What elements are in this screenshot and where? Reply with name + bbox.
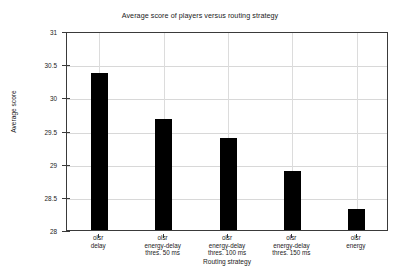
x-tick-label-line: energy xyxy=(346,242,365,250)
bar[interactable] xyxy=(91,73,108,231)
y-tick-mark xyxy=(62,32,70,33)
y-tick-label: 30 xyxy=(50,95,57,102)
y-tick-mark xyxy=(62,132,70,133)
x-tick-label-line: olsr xyxy=(91,234,106,242)
y-tick-mark xyxy=(62,65,70,66)
plot-area xyxy=(66,32,388,231)
bar[interactable] xyxy=(348,209,365,231)
y-tick-label: 29.5 xyxy=(45,128,57,135)
bar[interactable] xyxy=(284,171,301,231)
x-tick-label-line: olsr xyxy=(208,234,246,242)
chart-title: Average score of players versus routing … xyxy=(0,11,400,20)
x-tick-label-line: thres. 100 ms xyxy=(208,249,246,257)
x-axis-label: Routing strategy xyxy=(66,258,388,265)
x-tick-label-line: thres. 150 ms xyxy=(272,249,310,257)
y-tick-label: 30.5 xyxy=(45,62,57,69)
y-tick-mark xyxy=(62,98,70,99)
y-tick-label: 28.5 xyxy=(45,194,57,201)
x-tick-label-line: energy-delay xyxy=(208,242,246,250)
bar[interactable] xyxy=(220,138,237,231)
y-tick-mark xyxy=(62,231,70,232)
y-tick-mark xyxy=(62,198,70,199)
x-tick-label-line: energy-delay xyxy=(272,242,310,250)
figure-canvas: Average score of players versus routing … xyxy=(0,0,400,279)
x-tick-label: olsrdelay xyxy=(91,234,106,249)
y-tick-label: 28 xyxy=(50,228,57,235)
x-tick-label: olsrenergy xyxy=(346,234,365,249)
x-tick-label-line: energy-delay xyxy=(144,242,180,250)
bar[interactable] xyxy=(155,119,172,231)
x-tick-label: olsrenergy-delaythres. 150 ms xyxy=(272,234,310,257)
gridline-vertical xyxy=(357,33,358,230)
gridline-horizontal xyxy=(67,133,387,134)
y-tick-label: 31 xyxy=(50,29,57,36)
x-tick-label-line: thres. 50 ms xyxy=(144,249,180,257)
x-tick-label-line: olsr xyxy=(144,234,180,242)
gridline-horizontal xyxy=(67,66,387,67)
x-tick-label-line: olsr xyxy=(346,234,365,242)
x-tick-label: olsrenergy-delaythres. 100 ms xyxy=(208,234,246,257)
y-axis-label: Average score xyxy=(10,77,17,147)
x-tick-label-line: delay xyxy=(91,242,106,250)
x-tick-label-line: olsr xyxy=(272,234,310,242)
x-tick-label: olsrenergy-delaythres. 50 ms xyxy=(144,234,180,257)
gridline-horizontal xyxy=(67,99,387,100)
y-tick-label: 29 xyxy=(50,161,57,168)
y-tick-mark xyxy=(62,165,70,166)
